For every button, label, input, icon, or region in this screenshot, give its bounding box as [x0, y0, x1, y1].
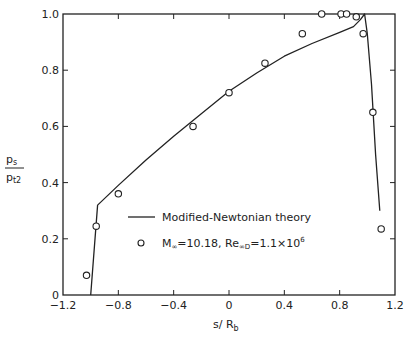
data-point [83, 272, 89, 278]
legend-item-experiment: M∞=10.18, Re∞D=1.1×106 [138, 236, 305, 251]
x-tick-label: 0.4 [276, 299, 294, 312]
y-axis-label: ps pt2 [5, 153, 24, 185]
x-tick-label: 0.8 [331, 299, 349, 312]
y-tick-label: 0 [52, 289, 59, 302]
y-tick-label: 0.8 [42, 64, 60, 77]
data-point [190, 123, 196, 129]
svg-text:M∞=10.18, Re∞D=1.1×106: M∞=10.18, Re∞D=1.1×106 [162, 236, 305, 251]
x-tick-label: 1.2 [386, 299, 404, 312]
svg-text:s/ Rb: s/ Rb [213, 318, 239, 333]
data-point [318, 11, 324, 17]
pressure-distribution-chart: −1.2−0.8−0.400.40.81.200.20.40.60.81.0 p… [0, 0, 410, 338]
svg-text:Modified-Newtonian theory: Modified-Newtonian theory [162, 211, 311, 224]
plot-frame [63, 14, 395, 295]
y-tick-label: 0.2 [42, 233, 60, 246]
x-tick-label: −0.4 [160, 299, 187, 312]
svg-text:ps: ps [6, 153, 17, 167]
data-point [262, 60, 268, 66]
data-point [353, 14, 359, 20]
axis-ticks: −1.2−0.8−0.400.40.81.200.20.40.60.81.0 [42, 8, 404, 312]
data-point [299, 30, 305, 36]
data-point [115, 191, 121, 197]
x-axis-label: s/ Rb [213, 318, 239, 333]
data-point [360, 30, 366, 36]
y-tick-label: 0.6 [42, 120, 60, 133]
theory-curve [91, 14, 380, 295]
x-tick-label: 0 [226, 299, 233, 312]
data-point [343, 11, 349, 17]
data-point [226, 89, 232, 95]
y-tick-label: 1.0 [42, 8, 60, 21]
open-circle-marker-icon [138, 240, 144, 246]
data-point [370, 109, 376, 115]
data-point [378, 226, 384, 232]
legend: Modified-Newtonian theory M∞=10.18, Re∞D… [128, 211, 311, 251]
x-tick-label: −0.8 [105, 299, 132, 312]
legend-item-theory: Modified-Newtonian theory [128, 211, 311, 224]
y-tick-label: 0.4 [42, 177, 60, 190]
data-point [93, 223, 99, 229]
svg-text:pt2: pt2 [6, 171, 21, 185]
